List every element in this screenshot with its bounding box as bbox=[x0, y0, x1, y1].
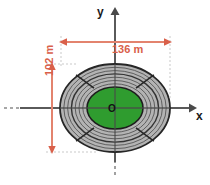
height-dimension-label: 102 m bbox=[44, 32, 55, 76]
stadium-coordinate-diagram: y x O 136 m 102 m bbox=[0, 0, 210, 185]
width-dimension-label: 136 m bbox=[112, 44, 143, 55]
y-axis-arrowhead bbox=[111, 7, 120, 15]
diagram-canvas bbox=[0, 0, 210, 185]
x-axis-label: x bbox=[196, 110, 203, 122]
width-arrowhead-left bbox=[59, 38, 67, 45]
height-arrowhead-bottom bbox=[48, 146, 55, 154]
origin-label: O bbox=[108, 104, 116, 114]
width-arrowhead-right bbox=[164, 38, 172, 45]
y-axis-label: y bbox=[97, 6, 104, 18]
